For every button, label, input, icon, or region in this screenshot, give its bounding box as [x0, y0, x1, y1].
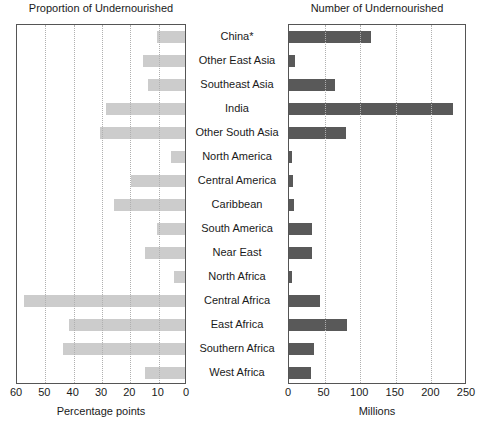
bar	[289, 79, 335, 91]
gridline	[325, 25, 327, 383]
axis-tick-label: 50	[38, 386, 50, 398]
axis-tick-label: 0	[285, 386, 291, 398]
bar	[63, 343, 185, 355]
bar	[289, 175, 293, 187]
bar	[143, 55, 186, 67]
bar-row	[289, 145, 465, 169]
bar	[145, 247, 185, 259]
right-x-axis-label: Millions	[288, 405, 466, 417]
axis-tick-label: 100	[350, 386, 368, 398]
left-plot-area	[16, 24, 186, 384]
bar-row	[289, 313, 465, 337]
category-label: Other East Asia	[188, 48, 286, 72]
bar-row	[289, 217, 465, 241]
bar	[289, 223, 312, 235]
bar	[289, 271, 292, 283]
bar-row	[289, 97, 465, 121]
bar	[289, 55, 295, 67]
right-plot-area	[288, 24, 466, 384]
left-chart-title: Proportion of Undernourished	[16, 2, 186, 14]
category-label: Caribbean	[188, 192, 286, 216]
right-chart-title: Number of Undernourished	[288, 2, 466, 14]
category-label: Southeast Asia	[188, 72, 286, 96]
bar-row	[289, 49, 465, 73]
category-label: Central Africa	[188, 288, 286, 312]
gridline	[102, 25, 104, 383]
right-bar-group	[289, 25, 465, 383]
axis-tick-label: 250	[457, 386, 475, 398]
bar	[289, 343, 314, 355]
bar-row	[289, 121, 465, 145]
axis-tick-label: 200	[421, 386, 439, 398]
category-label-column: China*Other East AsiaSoutheast AsiaIndia…	[188, 24, 286, 384]
bar	[289, 151, 292, 163]
bar	[148, 79, 185, 91]
bar	[171, 151, 185, 163]
bar-row	[289, 169, 465, 193]
dual-bar-chart-figure: Proportion of Undernourished Number of U…	[0, 0, 478, 437]
axis-tick-label: 30	[95, 386, 107, 398]
bar-row	[289, 289, 465, 313]
bar	[289, 31, 371, 43]
category-label: North Africa	[188, 264, 286, 288]
gridline	[45, 25, 47, 383]
axis-tick-label: 10	[152, 386, 164, 398]
category-label: Central America	[188, 168, 286, 192]
gridline	[396, 25, 398, 383]
bar-row	[289, 25, 465, 49]
bar	[114, 199, 185, 211]
left-x-axis: 6050403020100	[16, 386, 186, 402]
axis-tick-label: 150	[386, 386, 404, 398]
bar	[289, 199, 294, 211]
category-label: West Africa	[188, 360, 286, 384]
bar	[145, 367, 185, 379]
gridline	[130, 25, 132, 383]
bar-row	[289, 361, 465, 384]
bar	[289, 367, 311, 379]
gridline	[74, 25, 76, 383]
category-label: South America	[188, 216, 286, 240]
category-label: East Africa	[188, 312, 286, 336]
bar	[69, 319, 185, 331]
category-label: Other South Asia	[188, 120, 286, 144]
bar	[24, 295, 186, 307]
gridline	[360, 25, 362, 383]
axis-tick-label: 20	[123, 386, 135, 398]
axis-tick-label: 50	[317, 386, 329, 398]
bar-row	[289, 241, 465, 265]
bar	[289, 319, 347, 331]
right-x-axis: 050100150200250	[288, 386, 466, 402]
bar-row	[289, 193, 465, 217]
bar-row	[289, 337, 465, 361]
category-label: Near East	[188, 240, 286, 264]
axis-tick-label: 60	[10, 386, 22, 398]
gridline	[159, 25, 161, 383]
bar	[289, 103, 453, 115]
category-label: North America	[188, 144, 286, 168]
bar	[289, 127, 346, 139]
bar	[289, 295, 320, 307]
bar	[106, 103, 185, 115]
category-label: Southern Africa	[188, 336, 286, 360]
axis-tick-label: 40	[67, 386, 79, 398]
bar	[157, 223, 185, 235]
bar-row	[289, 73, 465, 97]
left-x-axis-label: Percentage points	[16, 405, 186, 417]
category-label: China*	[188, 24, 286, 48]
bar	[100, 127, 185, 139]
bar-row	[289, 265, 465, 289]
gridline	[431, 25, 433, 383]
category-label: India	[188, 96, 286, 120]
bar	[157, 31, 185, 43]
axis-tick-label: 0	[183, 386, 189, 398]
bar	[174, 271, 185, 283]
bar	[289, 247, 312, 259]
